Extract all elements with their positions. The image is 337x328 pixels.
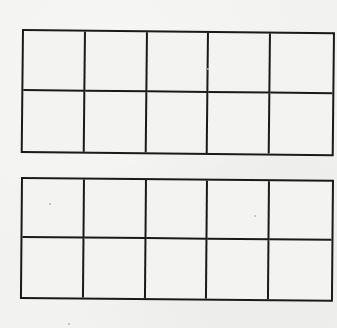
frame-1-cell-r2-c4[interactable] xyxy=(208,93,270,154)
ten-frame-top xyxy=(21,29,335,156)
frame-2-cell-r2-c4[interactable] xyxy=(207,240,269,300)
scan-speck xyxy=(68,323,70,325)
frame-2-cell-r2-c2[interactable] xyxy=(84,239,146,299)
frame-1-cell-r1-c2[interactable] xyxy=(85,32,147,93)
ten-frame-bottom xyxy=(20,177,334,302)
frame-1-cell-r1-c3[interactable] xyxy=(147,32,209,93)
frame-2-cell-r2-c5[interactable] xyxy=(269,240,331,300)
frame-1-cell-r1-c5[interactable] xyxy=(271,34,333,95)
frame-1-cell-r1-c1[interactable] xyxy=(23,31,85,92)
frame-1-cell-r1-c4[interactable] xyxy=(209,33,271,94)
frame-2-cell-r1-c3[interactable] xyxy=(146,180,208,240)
frame-2-cell-r2-c3[interactable] xyxy=(146,239,208,299)
scan-speck xyxy=(49,203,51,205)
scan-speck xyxy=(254,215,256,217)
frame-2-cell-r1-c4[interactable] xyxy=(208,181,270,241)
frame-1-cell-r2-c1[interactable] xyxy=(23,91,85,152)
frame-2-cell-r1-c1[interactable] xyxy=(22,179,84,239)
frame-1-cell-r2-c5[interactable] xyxy=(270,94,332,155)
frame-1-cell-r2-c3[interactable] xyxy=(146,92,208,153)
frame-2-cell-r1-c2[interactable] xyxy=(84,180,146,240)
scan-speck xyxy=(207,68,209,70)
frame-1-cell-r2-c2[interactable] xyxy=(85,92,147,153)
frame-2-cell-r1-c5[interactable] xyxy=(270,181,332,241)
frame-2-cell-r2-c1[interactable] xyxy=(22,238,84,298)
